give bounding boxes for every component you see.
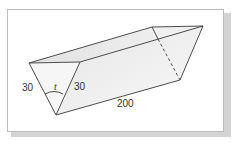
label-right-side: 30 — [74, 81, 86, 92]
label-left-side: 30 — [22, 82, 34, 93]
prism-diagram: 30 t 30 200 — [0, 0, 236, 144]
label-angle: t — [54, 81, 57, 92]
label-length: 200 — [117, 98, 134, 109]
